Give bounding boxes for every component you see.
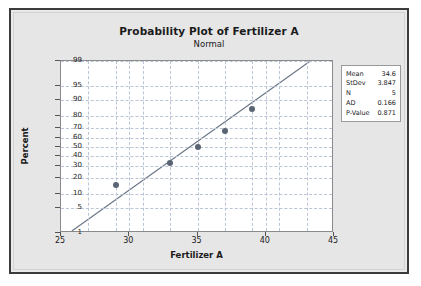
statistic-label: Mean (346, 69, 374, 79)
statistics-row: P-Value0.871 (346, 108, 396, 118)
y-tick-label: 5 (78, 203, 82, 211)
y-tick-label: 20 (73, 173, 82, 181)
x-axis-title: Fertilizer A (60, 250, 333, 260)
x-tick-label: 45 (328, 236, 338, 245)
y-tick-mark (55, 127, 60, 128)
y-tick-label: 60 (73, 133, 82, 141)
statistics-row: StDev3.847 (346, 79, 396, 89)
statistic-value: 0.871 (374, 108, 396, 118)
statistic-value: 3.847 (374, 79, 396, 89)
statistic-label: AD (346, 98, 374, 108)
statistic-value: 5 (374, 89, 396, 99)
y-tick-mark (55, 115, 60, 116)
y-tick-mark (55, 146, 60, 147)
y-tick-label: 50 (73, 142, 82, 150)
y-tick-mark (55, 60, 60, 61)
data-point (195, 144, 201, 150)
y-tick-label: 90 (73, 95, 82, 103)
y-tick-mark (55, 85, 60, 86)
x-tick-label: 35 (191, 236, 201, 245)
statistics-row: Mean34.6 (346, 69, 396, 79)
y-tick-label: 80 (73, 111, 82, 119)
y-tick-label: 1 (78, 228, 82, 236)
y-tick-label: 10 (73, 189, 82, 197)
fit-line-segment (72, 61, 310, 231)
y-tick-mark (55, 207, 60, 208)
y-tick-label: 40 (73, 151, 82, 159)
y-tick-mark (55, 177, 60, 178)
statistics-legend: Mean34.6StDev3.847N5AD0.166P-Value0.871 (341, 65, 401, 122)
data-point (222, 128, 228, 134)
chart-title: Probability Plot of Fertilizer A (11, 25, 407, 37)
statistic-label: P-Value (346, 108, 374, 118)
y-tick-mark (55, 165, 60, 166)
chart-subtitle: Normal (11, 39, 407, 49)
y-tick-mark (55, 99, 60, 100)
y-tick-label: 95 (73, 81, 82, 89)
statistics-row: N5 (346, 89, 396, 99)
statistics-row: AD0.166 (346, 98, 396, 108)
plot-area (60, 60, 333, 232)
data-point (249, 106, 255, 112)
statistic-value: 34.6 (374, 69, 396, 79)
y-tick-label: 70 (73, 123, 82, 131)
statistic-label: N (346, 89, 374, 99)
x-tick-label: 25 (55, 236, 65, 245)
y-axis-title: Percent (20, 127, 30, 164)
y-tick-label: 30 (73, 161, 82, 169)
y-tick-mark (55, 155, 60, 156)
data-point (113, 182, 119, 188)
statistic-label: StDev (346, 79, 374, 89)
y-tick-mark (55, 137, 60, 138)
y-tick-mark (55, 193, 60, 194)
figure-frame: Probability Plot of Fertilizer A Normal … (9, 8, 409, 274)
x-tick-label: 40 (260, 236, 270, 245)
x-tick-label: 30 (123, 236, 133, 245)
y-tick-label: 99 (73, 56, 82, 64)
statistics-table: Mean34.6StDev3.847N5AD0.166P-Value0.871 (346, 69, 396, 118)
statistic-value: 0.166 (374, 98, 396, 108)
